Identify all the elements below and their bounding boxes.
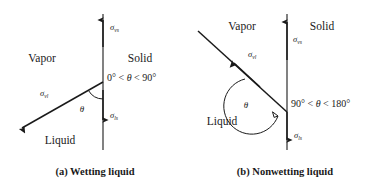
panel-nonwetting-liquid: Vapor Solid Liquid σvs σls σvl θ 90° < θ… <box>190 0 380 165</box>
angle-range-a: 0° < θ < 90° <box>107 72 156 83</box>
phase-label-liquid-a: Liquid <box>45 134 76 147</box>
sigma-vs-label-a: σvs <box>110 22 119 33</box>
caption-wetting-liquid: (a) Wetting liquid <box>0 166 190 177</box>
phase-label-liquid-b: Liquid <box>207 115 238 128</box>
contact-angle-arc-a <box>89 91 104 100</box>
theta-symbol-b: θ <box>244 100 249 110</box>
angle-range-b: 90° < θ < 180° <box>291 98 350 109</box>
sigma-vl-label-a: σvl <box>40 88 49 99</box>
panel-wetting-liquid: Vapor Solid Liquid σvs σls σvl θ 0° < θ … <box>0 0 190 165</box>
sigma-ls-label-a: σls <box>110 110 118 121</box>
sigma-ls-label-b: σls <box>294 130 302 141</box>
phase-label-solid-b: Solid <box>310 20 335 32</box>
caption-nonwetting-liquid: (b) Nonwetting liquid <box>190 166 380 177</box>
sigma-vs-label-b: σvs <box>293 34 302 45</box>
phase-label-solid-a: Solid <box>128 52 153 64</box>
phase-label-vapor-a: Vapor <box>28 52 56 65</box>
sigma-vl-vector-b <box>234 63 260 87</box>
sigma-vl-label-b: σvl <box>248 49 257 60</box>
phase-label-vapor-b: Vapor <box>228 20 256 33</box>
contact-angle-figure: Vapor Solid Liquid σvs σls σvl θ 0° < θ … <box>0 0 380 189</box>
contact-angle-arc-arrowhead-b <box>273 112 279 118</box>
sigma-vl-vector-a <box>22 82 103 128</box>
theta-symbol-a: θ <box>80 104 85 114</box>
